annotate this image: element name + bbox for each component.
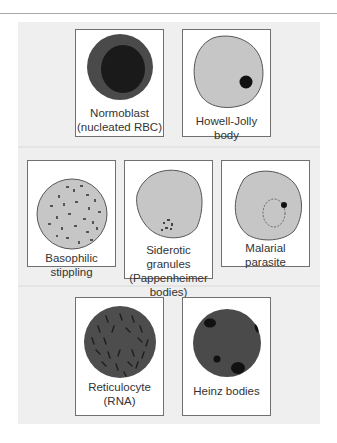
label-line: stippling (28, 265, 115, 279)
label-line: (RNA) (76, 394, 163, 408)
label-line: Normoblast (76, 106, 163, 120)
cell-howell-jolly: Howell-Jolly body (182, 29, 271, 137)
heinz-bodies-illustration (183, 298, 272, 417)
label-line: Siderotic granules (125, 243, 212, 271)
label-line: Reticulocyte (76, 380, 163, 394)
row-divider (18, 146, 320, 148)
cell-heinz-bodies: Heinz bodies (182, 297, 271, 416)
cell-siderotic-granules: Siderotic granules (Pappenheimer bodies) (124, 160, 213, 279)
label-line: Malarial (222, 241, 309, 255)
top-rule (0, 13, 337, 14)
label-line: (nucleated RBC) (76, 120, 163, 134)
label-line: Heinz bodies (183, 384, 270, 398)
cell-reticulocyte: Reticulocyte (RNA) (75, 297, 164, 416)
label-line: Howell-Jolly body (183, 114, 270, 142)
cell-normoblast: Normoblast (nucleated RBC) (75, 29, 164, 137)
label-line: Basophilic (28, 251, 115, 265)
cell-malarial-parasite: Malarial parasite (221, 160, 310, 267)
label-line: (Pappenheimer (125, 271, 212, 285)
label-line: parasite (222, 255, 309, 269)
cell-basophilic-stippling: Basophilic stippling (27, 160, 116, 267)
